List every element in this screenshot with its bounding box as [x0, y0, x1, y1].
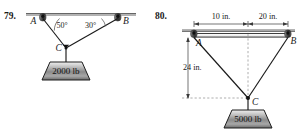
pin-support-a-79	[40, 14, 47, 22]
figure-root: 79. 50° 30°	[0, 0, 299, 135]
cable-ac-80	[194, 38, 248, 99]
top-dimension-group-80	[194, 21, 288, 27]
point-label-a-79: A	[30, 16, 37, 26]
problem-80-group: 80. 10 in. 20 in.	[155, 11, 297, 128]
point-label-c-79: C	[56, 43, 63, 53]
problem-79-group: 79. 50° 30°	[4, 11, 136, 80]
dim-arrow-right-in-80	[248, 22, 253, 26]
dim-arrow-left-out-80	[194, 22, 199, 26]
top-member-ab-80	[194, 34, 288, 38]
point-label-c-80: C	[252, 97, 259, 107]
angle-label-left-79: 50°	[57, 21, 68, 30]
point-label-b-79: B	[123, 16, 129, 26]
point-label-b-80: B	[291, 36, 297, 46]
problem-80-number: 80.	[155, 11, 167, 21]
angle-label-right-79: 30°	[85, 21, 96, 30]
dim-arrow-up-80	[186, 37, 190, 42]
dim-label-vertical-80: 24 in.	[183, 63, 202, 72]
pin-support-a-80	[191, 30, 198, 38]
dim-arrow-right-out-80	[283, 22, 288, 26]
load-label-79: 2000 lb	[52, 66, 80, 76]
load-label-80: 5000 lb	[234, 114, 262, 124]
angle-arc-b-79	[102, 19, 106, 27]
dim-label-top-right-80: 20 in.	[259, 12, 278, 21]
statics-problems-figure: 79. 50° 30°	[0, 0, 299, 135]
dim-label-top-left-80: 10 in.	[212, 12, 231, 21]
cable-bc-80	[248, 38, 288, 99]
dim-arrow-left-in-80	[243, 22, 248, 26]
point-label-a-80: A	[195, 38, 202, 48]
problem-79-number: 79.	[4, 11, 16, 21]
